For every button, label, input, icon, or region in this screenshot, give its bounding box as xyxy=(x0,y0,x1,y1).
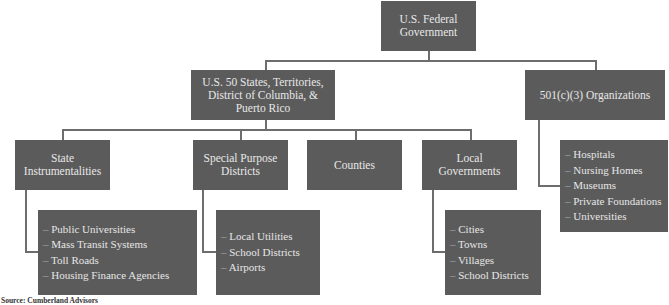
list-item: Public Universities xyxy=(43,222,197,238)
node-label: Local Governments xyxy=(426,152,513,178)
connector xyxy=(265,60,267,70)
list-state-instrumentalities: Public Universities Mass Transit Systems… xyxy=(38,210,197,295)
source-note: Source: Cumberland Advisors xyxy=(1,296,98,305)
connector xyxy=(62,129,64,140)
list-item: Toll Roads xyxy=(43,253,197,269)
node-label: State Instrumentalities xyxy=(19,152,106,178)
node-label: Special Purpose Districts xyxy=(197,152,284,178)
connector xyxy=(202,190,204,252)
node-label: 501(c)(3) Organizations xyxy=(540,89,651,102)
list-item: Villages xyxy=(450,253,541,269)
list-item: Cities xyxy=(450,222,541,238)
list-item: School Districts xyxy=(450,268,541,284)
connector xyxy=(355,129,357,140)
connector xyxy=(202,251,216,253)
connector xyxy=(432,190,434,252)
node-label: U.S. Federal Government xyxy=(385,13,472,39)
node-label: Counties xyxy=(334,159,375,172)
list-special-purpose-districts: Local Utilities School Districts Airport… xyxy=(216,210,320,295)
node-local-governments: Local Governments xyxy=(422,140,517,190)
list-item: Mass Transit Systems xyxy=(43,237,197,253)
list-item: School Districts xyxy=(221,245,320,261)
connector xyxy=(470,129,472,140)
connector xyxy=(432,251,445,253)
connector xyxy=(25,251,38,253)
node-501c3: 501(c)(3) Organizations xyxy=(525,70,665,120)
list-item: Museums xyxy=(565,178,668,194)
connector xyxy=(595,60,597,70)
node-special-purpose-districts: Special Purpose Districts xyxy=(193,140,288,190)
node-label: U.S. 50 States, Territories, District of… xyxy=(195,76,331,115)
connector xyxy=(538,185,560,187)
node-federal-government: U.S. Federal Government xyxy=(381,1,476,51)
connector xyxy=(62,129,470,131)
node-state-instrumentalities: State Instrumentalities xyxy=(15,140,110,190)
list-local-governments: Cities Towns Villages School Districts xyxy=(445,210,541,295)
node-counties: Counties xyxy=(307,140,402,190)
list-item: Nursing Homes xyxy=(565,163,668,179)
list-item: Private Foundations xyxy=(565,194,668,210)
connector xyxy=(25,190,27,252)
list-item: Universities xyxy=(565,209,668,225)
connector xyxy=(265,60,595,62)
list-item: Hospitals xyxy=(565,147,668,163)
list-501c3: Hospitals Nursing Homes Museums Private … xyxy=(560,140,668,232)
connector xyxy=(538,120,540,186)
node-states: U.S. 50 States, Territories, District of… xyxy=(191,70,335,120)
list-item: Local Utilities xyxy=(221,229,320,245)
connector xyxy=(240,129,242,140)
list-item: Airports xyxy=(221,260,320,276)
list-item: Towns xyxy=(450,237,541,253)
list-item: Housing Finance Agencies xyxy=(43,268,197,284)
